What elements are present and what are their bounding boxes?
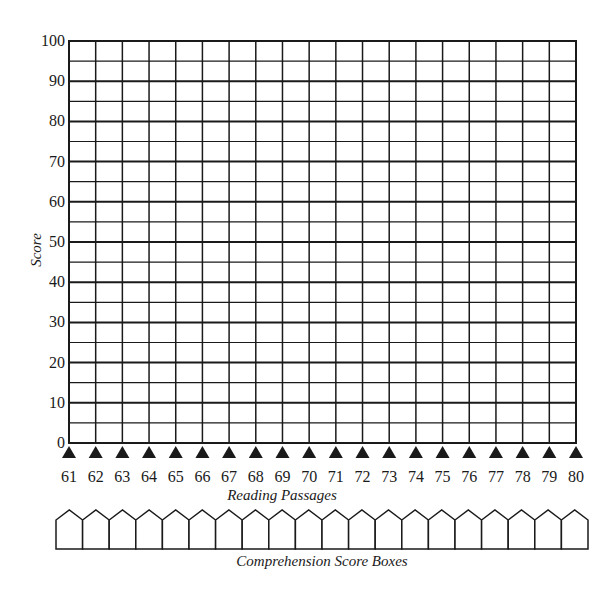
x-axis-tick-labels: 6162636465666768697071727374757677787980	[61, 468, 584, 485]
x-tick-label: 80	[568, 468, 584, 485]
y-tick-label: 40	[49, 273, 65, 290]
y-tick-label: 30	[49, 313, 65, 330]
triangle-up-icon	[89, 446, 103, 458]
reading-passages-score-graph: 0102030405060708090100 61626364656667686…	[0, 0, 611, 590]
triangle-up-icon	[275, 446, 289, 458]
comprehension-score-box	[508, 510, 535, 549]
triangle-up-icon	[516, 446, 530, 458]
comprehension-score-box	[216, 510, 243, 549]
comprehension-score-box	[428, 510, 455, 549]
comprehension-score-box	[136, 510, 163, 549]
y-tick-label: 80	[49, 112, 65, 129]
comprehension-score-boxes	[56, 510, 588, 549]
x-tick-label: 72	[355, 468, 371, 485]
x-tick-label: 66	[194, 468, 210, 485]
triangle-up-icon	[249, 446, 263, 458]
triangle-up-icon	[169, 446, 183, 458]
y-tick-label: 50	[49, 233, 65, 250]
y-tick-label: 10	[49, 394, 65, 411]
comprehension-score-box	[295, 510, 322, 549]
x-tick-label: 71	[328, 468, 344, 485]
comprehension-score-box	[455, 510, 482, 549]
y-tick-label: 90	[49, 72, 65, 89]
triangle-up-icon	[489, 446, 503, 458]
x-tick-label: 64	[141, 468, 157, 485]
x-tick-label: 75	[435, 468, 451, 485]
triangle-up-icon	[222, 446, 236, 458]
triangle-up-icon	[436, 446, 450, 458]
score-boxes-caption: Comprehension Score Boxes	[236, 553, 408, 569]
y-tick-label: 60	[49, 193, 65, 210]
comprehension-score-box	[269, 510, 296, 549]
x-tick-label: 74	[408, 468, 424, 485]
x-tick-label: 61	[61, 468, 77, 485]
x-tick-label: 69	[274, 468, 290, 485]
comprehension-score-box	[109, 510, 136, 549]
comprehension-score-box	[375, 510, 402, 549]
x-tick-label: 70	[301, 468, 317, 485]
triangle-up-icon	[302, 446, 316, 458]
x-tick-label: 68	[248, 468, 264, 485]
triangle-up-icon	[569, 446, 583, 458]
x-tick-label: 63	[114, 468, 130, 485]
comprehension-score-box	[482, 510, 509, 549]
y-tick-label: 70	[49, 153, 65, 170]
x-axis-title: Reading Passages	[226, 487, 337, 503]
comprehension-score-box	[322, 510, 349, 549]
x-tick-label: 76	[461, 468, 477, 485]
comprehension-score-box	[402, 510, 429, 549]
passage-markers	[62, 446, 583, 458]
comprehension-score-box	[162, 510, 189, 549]
comprehension-score-box	[535, 510, 562, 549]
comprehension-score-box	[242, 510, 269, 549]
x-tick-label: 62	[88, 468, 104, 485]
comprehension-score-box	[349, 510, 376, 549]
y-axis-title: Score	[28, 233, 44, 267]
comprehension-score-box	[56, 510, 83, 549]
x-tick-label: 78	[515, 468, 531, 485]
triangle-up-icon	[409, 446, 423, 458]
comprehension-score-box	[83, 510, 110, 549]
triangle-up-icon	[356, 446, 370, 458]
triangle-up-icon	[142, 446, 156, 458]
comprehension-score-box	[561, 510, 588, 549]
x-tick-label: 67	[221, 468, 237, 485]
y-tick-label: 0	[57, 434, 65, 451]
comprehension-score-box	[189, 510, 216, 549]
x-tick-label: 73	[381, 468, 397, 485]
triangle-up-icon	[195, 446, 209, 458]
triangle-up-icon	[115, 446, 129, 458]
y-axis-tick-labels: 0102030405060708090100	[41, 32, 65, 451]
triangle-up-icon	[462, 446, 476, 458]
triangle-up-icon	[542, 446, 556, 458]
y-tick-label: 100	[41, 32, 65, 49]
x-tick-label: 77	[488, 468, 504, 485]
y-tick-label: 20	[49, 354, 65, 371]
x-tick-label: 65	[168, 468, 184, 485]
triangle-up-icon	[382, 446, 396, 458]
x-tick-label: 79	[541, 468, 557, 485]
triangle-up-icon	[329, 446, 343, 458]
